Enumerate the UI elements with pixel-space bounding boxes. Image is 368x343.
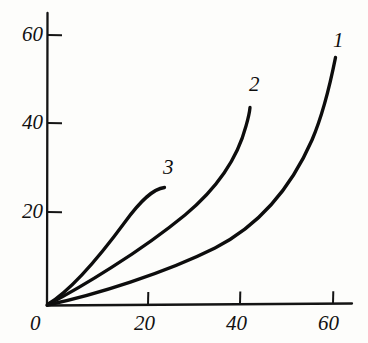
curve-1 bbox=[48, 58, 336, 306]
y-tick-label-20: 20 bbox=[13, 201, 43, 222]
y-tick-label-40: 40 bbox=[13, 112, 43, 133]
y-tick-label-60: 60 bbox=[13, 24, 43, 45]
chart-plot-area bbox=[0, 0, 368, 343]
curve-3 bbox=[48, 188, 165, 305]
curve-label-1: 1 bbox=[333, 30, 344, 51]
x-tick-label-20: 20 bbox=[134, 313, 155, 334]
curve-label-2: 2 bbox=[249, 74, 260, 95]
x-tick-label-40: 40 bbox=[226, 313, 247, 334]
figure-chart: 60 40 20 0 20 40 60 1 2 3 bbox=[0, 0, 368, 343]
curve-label-3: 3 bbox=[163, 157, 174, 178]
y-axis-line bbox=[47, 13, 48, 306]
x-tick-label-60: 60 bbox=[318, 313, 339, 334]
x-tick-label-0: 0 bbox=[30, 313, 41, 334]
x-axis-line bbox=[47, 304, 353, 306]
